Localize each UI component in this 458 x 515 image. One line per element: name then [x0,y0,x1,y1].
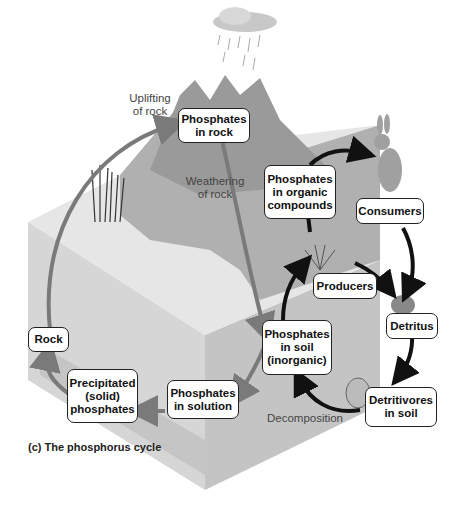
label-detritus: Detritus [386,313,438,339]
rain-icon [218,35,260,70]
process-weathering: Weathering of rock [180,175,250,201]
process-decomposition: Decomposition [262,412,348,425]
detritus-icon [391,295,415,315]
label-producers: Producers [313,273,377,299]
label-rock: Rock [28,327,69,352]
process-uplifting: Uplifting of rock [125,92,175,118]
phosphorus-cycle-illustration [0,0,458,515]
label-phosphates-in-soil: Phosphates in soil (inorganic) [262,320,332,375]
figure-caption: (c) The phosphorus cycle [28,441,161,453]
label-phosphates-in-rock: Phosphates in rock [178,108,250,143]
consumers-to-detritus-arrow [403,228,413,290]
label-detritivores-in-soil: Detritivores in soil [365,387,437,427]
label-phosphates-in-organic-compounds: Phosphates in organic compounds [264,165,336,219]
label-consumers: Consumers [356,198,424,224]
label-phosphates-in-solution: Phosphates in solution [167,380,239,419]
label-precipitated-phosphates: Precipitated (solid) phosphates [67,369,138,423]
detritus-to-detritivores-arrow [400,335,412,375]
